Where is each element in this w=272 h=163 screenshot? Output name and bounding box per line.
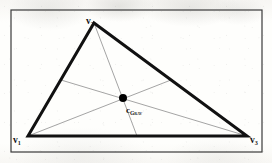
- median-from-v1: [28, 80, 171, 136]
- vertex-label-v1: v1: [13, 130, 21, 146]
- median-from-v3: [61, 80, 247, 136]
- figure-container: v2 v1 v3 cGrav: [0, 0, 272, 163]
- vertex-label-v2: v2: [86, 11, 94, 27]
- vertex-label-v2-subscript: 2: [91, 20, 94, 27]
- vertex-label-v3-subscript: 3: [255, 139, 258, 146]
- vertex-label-v3: v3: [250, 130, 258, 146]
- vertex-label-v3-base: v: [250, 135, 255, 145]
- vertex-label-v1-subscript: 1: [18, 139, 21, 146]
- vertex-label-v1-base: v: [13, 135, 18, 145]
- triangle-outline: [28, 23, 247, 136]
- centroid-label-subscript: Grav: [130, 110, 142, 116]
- figure-border-frame: [11, 10, 262, 152]
- triangle-centroid-diagram: [0, 0, 272, 163]
- centroid-label: cGrav: [126, 100, 142, 117]
- vertex-label-v2-base: v: [86, 16, 91, 26]
